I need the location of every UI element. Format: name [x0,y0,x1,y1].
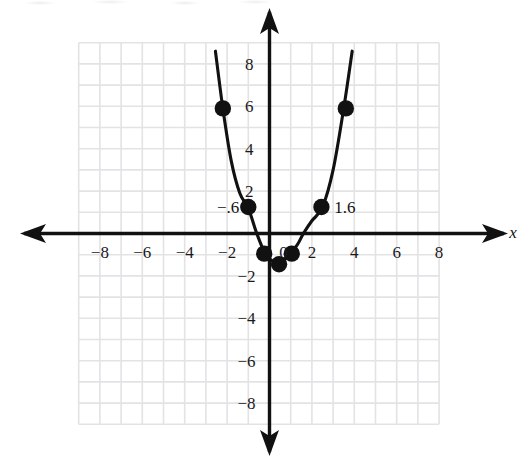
x-tick-label-4: 4 [350,243,359,262]
x-tick-label-−4: −4 [176,243,195,262]
y-tick-label-−2: −2 [237,267,255,286]
y-tick-label-−8: −8 [237,394,255,413]
x-tick-label-−6: −6 [133,243,151,262]
data-point-6 [338,100,354,116]
y-tick-label-8: 8 [245,55,254,74]
x-tick-label-2: 2 [308,243,317,262]
y-tick-label-6: 6 [245,97,254,116]
data-point-2 [256,245,272,261]
x-tick-label-6: 6 [392,243,401,262]
left-root-label: −.6 [217,198,239,217]
y-tick-label-2: 2 [245,182,254,201]
data-point-0 [215,100,231,116]
y-tick-label-−6: −6 [237,352,255,371]
x-axis-name-label: x [508,223,517,242]
x-tick-label-−8: −8 [91,243,109,262]
right-root-label: 1.6 [334,198,355,217]
x-tick-label-8: 8 [435,243,444,262]
coordinate-plane-svg: −8−6−4−2024688642−2−4−6−8x−.61.6 [0,0,531,459]
data-point-5 [313,199,329,215]
graph-figure: −8−6−4−2024688642−2−4−6−8x−.61.6 [0,0,531,459]
y-tick-label-−4: −4 [237,309,256,328]
axis-lines [20,8,508,456]
x-tick-label-−2: −2 [218,243,236,262]
y-tick-label-4: 4 [245,140,254,159]
data-point-1 [240,199,256,215]
x-origin-label: 0 [279,243,288,262]
